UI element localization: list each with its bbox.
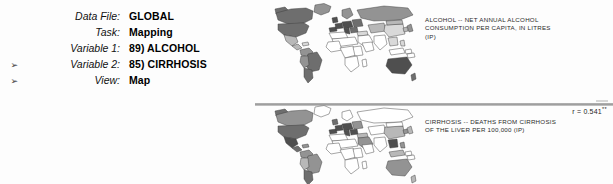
world-map-svg [269, 2, 417, 84]
selection-arrow-icon: ➢ [0, 57, 22, 73]
world-map-svg [269, 104, 417, 184]
parameter-value: 85) CIRRHOSIS [129, 56, 207, 72]
parameter-label: Data File: [22, 8, 129, 24]
parameter-value: Mapping [129, 24, 173, 40]
significance-marker: ** [602, 106, 607, 112]
world-choropleth-cirrhosis[interactable] [269, 104, 417, 184]
screenshot-root: Data File: GLOBAL Task: Mapping Variable… [0, 0, 613, 184]
parameter-label: Task: [22, 24, 129, 40]
parameter-label: View: [22, 72, 129, 88]
map-caption-cirrhosis: CIRRHOSIS -- DEATHS FROM CIRRHOSIS OF TH… [425, 118, 605, 135]
parameter-value: GLOBAL [129, 8, 174, 24]
world-choropleth-alcohol[interactable] [269, 2, 417, 84]
caption-line: OF THE LIVER PER 100,000 (IP) [425, 126, 605, 134]
parameter-panel: Data File: GLOBAL Task: Mapping Variable… [0, 8, 250, 88]
parameter-label: Variable 2: [22, 56, 129, 72]
parameter-value: 89) ALCOHOL [129, 40, 200, 56]
correlation-label: r = [572, 108, 583, 115]
parameter-label: Variable 1: [22, 40, 129, 56]
caption-line: CIRRHOSIS -- DEATHS FROM CIRRHOSIS [425, 118, 605, 126]
caption-line: ALCOHOL -- NET ANNUAL ALCOHOL [425, 16, 605, 24]
caption-line: (IP) [425, 33, 605, 41]
caption-line: CONSUMPTION PER CAPITA, IN LITRES [425, 24, 605, 32]
correlation-value: 0.541 [583, 108, 602, 115]
parameter-row-view[interactable]: ➢ View: Map [0, 72, 250, 88]
parameter-row-data-file[interactable]: Data File: GLOBAL [0, 8, 250, 24]
parameter-row-task[interactable]: Task: Mapping [0, 24, 250, 40]
divider-speck [596, 100, 608, 102]
parameter-row-variable-2[interactable]: ➢ Variable 2: 85) CIRRHOSIS [0, 56, 250, 72]
map-caption-alcohol: ALCOHOL -- NET ANNUAL ALCOHOL CONSUMPTIO… [425, 16, 605, 41]
parameter-row-variable-1[interactable]: Variable 1: 89) ALCOHOL [0, 40, 250, 56]
selection-arrow-icon: ➢ [0, 73, 22, 89]
parameter-value: Map [129, 72, 150, 88]
